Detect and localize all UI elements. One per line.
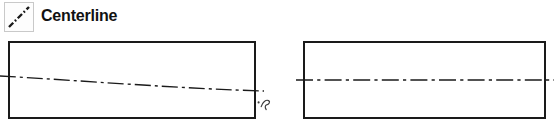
left-part-sloping-centerline [0,36,290,127]
right-part-horizontal-centerline [296,36,558,127]
illustration-canvas: Centerline [0,0,558,127]
part-outline-rect [9,42,255,118]
squiggle-arrow-annotation [258,100,270,109]
centerline-dash-dot-diagonal-icon [4,2,34,32]
legend-label: Centerline [41,8,117,26]
legend: Centerline [4,2,117,32]
